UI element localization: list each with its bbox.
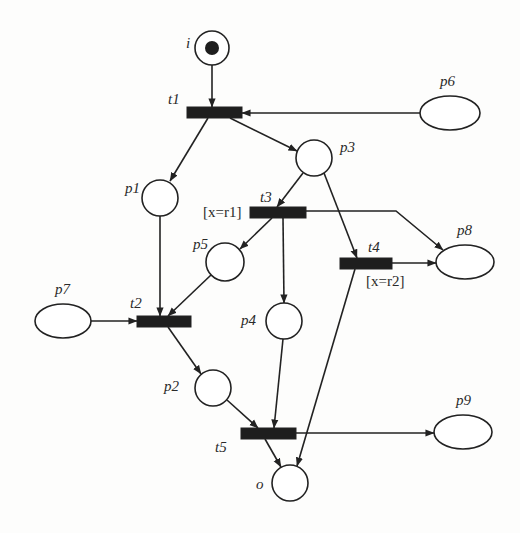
transition-label-t3: t3: [260, 189, 272, 205]
place-label-p7: p7: [54, 281, 72, 297]
transition-label-t4: t4: [368, 239, 380, 255]
place-p4: [266, 303, 302, 339]
place-p3: [296, 140, 332, 176]
place-label-o: o: [256, 476, 264, 492]
place-label-p1: p1: [124, 180, 140, 196]
place-p7: [35, 304, 91, 338]
place-label-i: i: [186, 35, 190, 51]
place-label-p5: p5: [192, 236, 209, 252]
place-label-p8: p8: [456, 222, 473, 238]
place-label-p4: p4: [240, 312, 257, 328]
place-p9: [434, 415, 492, 449]
transition-label-t5: t5: [215, 439, 227, 455]
arc-t4-to-o: [297, 269, 355, 466]
place-label-p6: p6: [439, 73, 456, 89]
guard-label-t3: [x=r1]: [203, 204, 241, 220]
arc-p5-to-t2: [168, 275, 211, 316]
place-p8: [436, 245, 494, 279]
arc-t1-to-p3: [230, 118, 297, 151]
transition-t1: [187, 107, 242, 118]
transition-t3: [250, 207, 306, 218]
arc-p3-to-t3: [277, 173, 303, 207]
arc-p3-to-t4: [324, 173, 357, 258]
place-p6: [420, 96, 480, 130]
place-label-p9: p9: [455, 392, 472, 408]
place-o: [272, 465, 308, 501]
place-label-p2: p2: [163, 378, 180, 394]
arc-t2-to-p2: [168, 327, 201, 374]
arc-t1-to-p1: [170, 118, 208, 181]
place-p2: [195, 370, 231, 406]
arc-p4-to-t5: [274, 339, 283, 428]
place-p1: [142, 180, 178, 216]
arc-t3-to-p5: [240, 218, 272, 249]
arc-t3-to-p4: [283, 218, 284, 303]
transition-t4: [340, 258, 392, 269]
petri-net-svg: t1t2t3[x=r1]t4[x=r2]t5ip1p2p3p4p5p6p7p8p…: [0, 0, 520, 533]
guard-label-t4: [x=r2]: [366, 273, 404, 289]
place-label-p3: p3: [339, 139, 355, 155]
transition-label-t1: t1: [168, 91, 180, 107]
arc-t5-to-o: [265, 439, 281, 467]
arc-p2-to-t5: [227, 400, 258, 428]
token-icon: [205, 41, 219, 55]
place-p5: [206, 243, 244, 281]
transition-label-t2: t2: [130, 295, 142, 311]
transition-t2: [137, 316, 191, 327]
petri-net-diagram: t1t2t3[x=r1]t4[x=r2]t5ip1p2p3p4p5p6p7p8p…: [0, 0, 520, 533]
transition-t5: [241, 428, 296, 439]
